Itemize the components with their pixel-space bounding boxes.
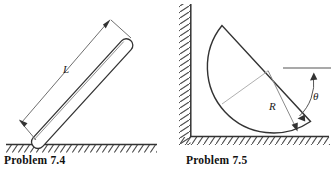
angle-dimension-75: θ xyxy=(298,73,320,122)
ground-hatching-74 xyxy=(6,144,157,152)
leaning-rod xyxy=(29,36,136,151)
figures-svg: L xyxy=(0,0,331,171)
figure-problem-7-5: R θ xyxy=(179,4,331,145)
figure-problem-7-4: L xyxy=(6,19,157,152)
length-label: L xyxy=(62,63,69,75)
angle-arrowhead-upper xyxy=(310,73,317,81)
caption-problem-7-4: Problem 7.4 xyxy=(4,154,65,166)
caption-problem-7-5: Problem 7.5 xyxy=(186,154,247,166)
wall-hatching-75 xyxy=(179,4,191,145)
disc-outline xyxy=(207,26,310,133)
angle-label: θ xyxy=(313,90,319,102)
figure-page: L xyxy=(0,0,331,171)
radius-label: R xyxy=(268,100,276,112)
length-dimension-74 xyxy=(19,19,131,140)
ground-hatching-75 xyxy=(179,136,330,145)
dimension-extension-upper xyxy=(111,20,131,38)
figures-canvas: L xyxy=(0,0,331,171)
semicircular-disc xyxy=(207,26,310,133)
